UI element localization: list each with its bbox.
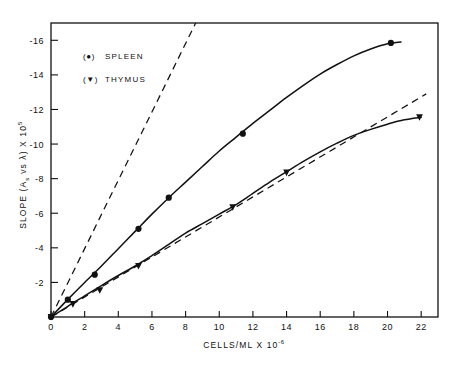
- x-tick-label: 20: [382, 322, 393, 332]
- x-tick-label: 8: [183, 322, 189, 332]
- data-point-marker: [240, 131, 246, 137]
- plot-frame: [51, 23, 438, 317]
- chart-page: 0246810121416182022 -2-4-6-8-10-12-14-16…: [0, 0, 456, 371]
- x-tick-label: 2: [82, 322, 88, 332]
- series-spleen: [48, 23, 401, 320]
- y-axis-title-mid: vs: [18, 160, 28, 178]
- y-tick-label: -8: [35, 174, 44, 184]
- legend-symbol-thymus: (▼): [83, 75, 98, 84]
- legend-item-spleen: (●) SPLEEN: [83, 52, 144, 61]
- x-axis-ticks: [51, 311, 421, 317]
- y-axis-title: SLOPE (As vs λ) X 105: [17, 121, 30, 229]
- y-tick-label: -10: [29, 140, 44, 150]
- data-point-marker: [135, 226, 141, 232]
- x-tick-label: 16: [315, 322, 326, 332]
- y-axis-title-tail: ) X 10: [18, 125, 28, 154]
- curve-thymus: [51, 117, 421, 317]
- y-tick-label: -14: [29, 70, 44, 80]
- x-tick-label: 22: [416, 322, 427, 332]
- svg-text:CELLS/ML X 10-6: CELLS/ML X 10-6: [203, 339, 284, 350]
- x-axis-tick-labels: 0246810121416182022: [48, 322, 426, 332]
- x-tick-label: 4: [116, 322, 122, 332]
- slope-vs-cell-concentration-chart: 0246810121416182022 -2-4-6-8-10-12-14-16…: [0, 0, 456, 371]
- y-axis-tick-labels: -2-4-6-8-10-12-14-16: [29, 36, 44, 288]
- data-point-marker: [166, 195, 172, 201]
- x-axis-title-text: CELLS/ML X 10: [203, 340, 278, 350]
- y-tick-label: -6: [35, 209, 44, 219]
- data-point-marker: [92, 272, 98, 278]
- y-axis-ticks: [51, 40, 58, 282]
- y-axis-title-exponent: 5: [17, 121, 23, 125]
- x-tick-label: 6: [149, 322, 155, 332]
- x-axis-title: CELLS/ML X 10-6: [203, 339, 284, 350]
- data-series-layer: [48, 23, 427, 321]
- y-tick-label: -16: [29, 36, 44, 46]
- x-tick-label: 0: [48, 322, 54, 332]
- legend-label-spleen: SPLEEN: [105, 52, 144, 61]
- data-point-marker: [388, 40, 394, 46]
- x-tick-label: 14: [281, 322, 292, 332]
- x-tick-label: 10: [214, 322, 225, 332]
- x-tick-label: 12: [247, 322, 258, 332]
- tangent-line-thymus: [51, 94, 426, 317]
- x-axis-title-exponent: -6: [278, 339, 284, 345]
- y-tick-label: -2: [35, 278, 44, 288]
- curve-spleen: [51, 42, 401, 317]
- legend-label-thymus: THYMUS: [105, 75, 146, 84]
- x-tick-label: 18: [348, 322, 359, 332]
- legend-symbol-spleen: (●): [83, 52, 95, 61]
- legend-item-thymus: (▼) THYMUS: [83, 75, 146, 84]
- data-point-marker: [96, 287, 103, 294]
- plot-border: [51, 23, 438, 317]
- chart-legend: (●) SPLEEN (▼) THYMUS: [83, 52, 146, 84]
- svg-text:SLOPE (As vs λ) X 105: SLOPE (As vs λ) X 105: [17, 121, 30, 229]
- y-tick-label: -4: [35, 243, 44, 253]
- y-tick-label: -12: [29, 105, 44, 115]
- y-axis-title-text: SLOPE (A: [18, 181, 28, 229]
